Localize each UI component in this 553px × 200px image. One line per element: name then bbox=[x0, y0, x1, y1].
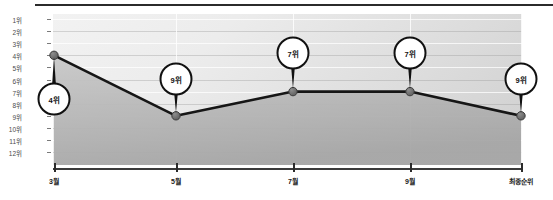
callout-label: 7위 bbox=[277, 37, 310, 70]
x-axis-tick-mark bbox=[293, 163, 295, 172]
callout-label: 7위 bbox=[394, 37, 427, 70]
x-axis-tick-label: 3월 bbox=[49, 176, 59, 186]
x-axis-tick-mark bbox=[521, 163, 523, 172]
x-axis-tick-label: 7월 bbox=[288, 176, 298, 186]
rank-trend-chart: 1위2위3위4위5위6위7위8위9위10위11위12위 4위9위7위7위9위 3… bbox=[0, 0, 553, 200]
callout-label: 4위 bbox=[38, 83, 71, 116]
x-axis-tick-label: 5월 bbox=[171, 176, 181, 186]
x-axis-line bbox=[53, 168, 522, 170]
x-axis-tick-mark bbox=[176, 163, 178, 172]
x-axis-tick-mark bbox=[410, 163, 412, 172]
x-axis-tick-label: 최종순위 bbox=[509, 176, 533, 186]
callout-label: 9위 bbox=[160, 63, 193, 96]
area-fill bbox=[54, 55, 521, 165]
x-axis-tick-label: 9월 bbox=[405, 176, 415, 186]
x-axis-tick-mark bbox=[54, 163, 56, 172]
callout-label: 9위 bbox=[505, 63, 538, 96]
series-layer bbox=[0, 0, 553, 200]
